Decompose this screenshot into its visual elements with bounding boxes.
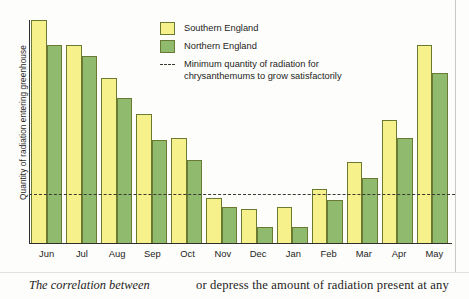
legend-item-northern: Northern England	[160, 40, 450, 53]
bar-north	[187, 160, 203, 242]
bar-group	[31, 20, 66, 243]
page-root: Quantity of radiation entering greenhous…	[0, 0, 469, 299]
bar-south	[347, 162, 363, 242]
bar-group	[101, 20, 136, 243]
bar-north	[327, 200, 343, 242]
bar-north	[47, 45, 63, 243]
caption-left-italic: The correlation between	[29, 278, 150, 293]
x-label: May	[419, 248, 454, 259]
x-label: Nov	[207, 248, 242, 259]
bar-group	[66, 20, 101, 243]
x-label: Oct	[172, 248, 207, 259]
bar-south	[101, 78, 117, 243]
x-label: Jan	[278, 248, 313, 259]
bar-north	[257, 227, 273, 243]
bar-north	[397, 138, 413, 243]
x-label: Apr	[384, 248, 419, 259]
caption-right-text: or depress the amount of radiation prese…	[196, 278, 449, 293]
bar-south	[382, 120, 398, 242]
bar-south	[206, 198, 222, 243]
bar-south	[312, 189, 328, 242]
bar-north	[362, 178, 378, 243]
bar-south	[66, 45, 82, 243]
legend-item-threshold: Minimum quantity of radiation for chrysa…	[160, 58, 450, 82]
page-border-rule	[455, 0, 456, 272]
legend-label-northern: Northern England	[184, 40, 257, 53]
x-label: Dec	[243, 248, 278, 259]
bar-south	[241, 209, 257, 242]
x-label: Jul	[66, 248, 101, 259]
x-label: Sep	[137, 248, 172, 259]
bar-north	[152, 140, 168, 242]
legend-label-southern: Southern England	[184, 22, 258, 35]
bar-north	[432, 73, 448, 242]
legend-threshold-line1: Minimum quantity of radiation for	[184, 59, 319, 69]
figure-caption: The correlation between or depress the a…	[0, 276, 469, 299]
bar-north	[82, 56, 98, 243]
bar-north	[117, 98, 133, 243]
x-axis-labels: JunJulAugSepOctNovDecJanFebMarAprMay	[31, 248, 454, 259]
y-axis-title: Quantity of radiation entering greenhous…	[19, 8, 28, 238]
bar-south	[136, 114, 152, 243]
legend-item-southern: Southern England	[160, 22, 450, 35]
dashed-line-icon	[160, 58, 175, 71]
x-label: Mar	[348, 248, 383, 259]
bar-south	[31, 20, 47, 243]
x-label: Jun	[31, 248, 66, 259]
legend-threshold-line2: chrysanthemums to grow satisfactorily	[184, 71, 342, 83]
x-axis-line	[29, 243, 452, 244]
bar-north	[292, 227, 308, 243]
green-swatch-icon	[160, 40, 175, 53]
bar-south	[277, 207, 293, 243]
bar-north	[222, 207, 238, 243]
bar-south	[171, 138, 187, 243]
chart-legend: Southern England Northern England Minimu…	[160, 22, 450, 87]
page-border-bottom	[0, 272, 469, 273]
yellow-swatch-icon	[160, 22, 175, 35]
threshold-line	[29, 194, 455, 195]
x-label: Aug	[102, 248, 137, 259]
legend-label-threshold: Minimum quantity of radiation for chrysa…	[184, 58, 342, 82]
x-label: Feb	[313, 248, 348, 259]
